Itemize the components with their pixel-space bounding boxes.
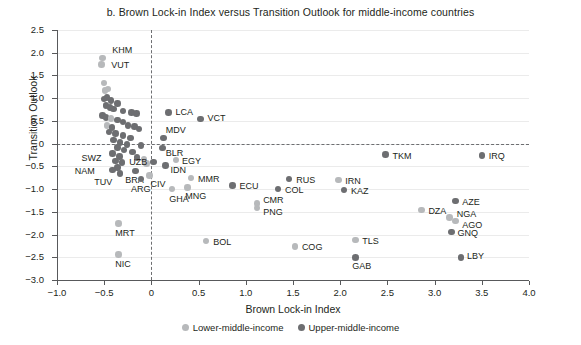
x-axis-tick	[482, 281, 483, 285]
data-point	[109, 150, 116, 157]
x-axis-tick	[104, 281, 105, 285]
data-point-label-vut: VUT	[111, 61, 129, 70]
y-axis-tick-label: 0.5	[8, 115, 44, 126]
y-axis-tick-label: −3.0	[8, 274, 44, 285]
y-axis-tick	[52, 212, 57, 213]
x-axis-tick	[529, 281, 530, 285]
gridline-horizontal	[57, 75, 529, 76]
data-point-label-png: PNG	[263, 208, 283, 217]
data-point-label-col: COL	[285, 186, 304, 195]
gridline-horizontal	[57, 166, 529, 167]
y-axis-tick	[52, 235, 57, 236]
y-axis-tick-label: 2.5	[8, 24, 44, 35]
y-axis-tick	[52, 144, 57, 145]
data-point	[114, 144, 121, 151]
data-point-ago	[452, 218, 459, 225]
data-point	[125, 122, 132, 129]
data-point-mng	[184, 184, 191, 191]
data-point-mmr	[188, 175, 195, 182]
y-axis-tick	[52, 189, 57, 190]
x-axis-tick-label: 2.5	[367, 287, 407, 298]
data-point	[110, 106, 117, 113]
data-point-label-idn: IDN	[171, 166, 187, 175]
y-axis-tick-label: −2.0	[8, 229, 44, 240]
data-point-label-mmr: MMR	[198, 175, 220, 184]
data-point-label-khm: KHM	[112, 46, 132, 55]
data-point-rus	[286, 176, 293, 183]
y-axis-tick	[52, 257, 57, 258]
y-axis-tick-label: 1.0	[8, 92, 44, 103]
x-axis-tick-label: 1.0	[226, 287, 266, 298]
scatter-chart: b. Brown Lock-in Index versus Transition…	[0, 0, 581, 345]
data-point-label-gab: GAB	[352, 262, 371, 271]
x-axis-tick	[199, 281, 200, 285]
data-point-gab	[352, 254, 359, 261]
data-point	[112, 130, 119, 137]
data-point-bol	[203, 238, 210, 245]
y-axis-tick	[52, 30, 57, 31]
data-point-gnq	[448, 229, 455, 236]
legend-label: Upper-middle-income	[309, 322, 400, 333]
data-point-bra	[132, 168, 139, 175]
data-point	[121, 147, 128, 154]
data-point-cog	[292, 243, 299, 250]
x-axis-tick	[151, 281, 152, 285]
data-point-aze	[452, 198, 459, 205]
x-axis-tick-label: 3.5	[462, 287, 502, 298]
data-point	[120, 108, 127, 115]
legend: Lower-middle-incomeUpper-middle-income	[0, 322, 581, 333]
gridline-horizontal	[57, 98, 529, 99]
y-axis-tick-label: −1.5	[8, 206, 44, 217]
data-point-label-gha: GHA	[169, 195, 189, 204]
legend-label: Lower-middle-income	[193, 322, 284, 333]
y-axis-tick-label: −2.5	[8, 251, 44, 262]
y-axis-tick-label: 1.5	[8, 69, 44, 80]
legend-item: Upper-middle-income	[298, 322, 400, 333]
data-point-label-tuv: TUV	[94, 178, 112, 187]
legend-item: Lower-middle-income	[182, 322, 284, 333]
chart-title: b. Brown Lock-in Index versus Transition…	[0, 6, 581, 18]
data-point-mdv	[160, 135, 167, 142]
data-point	[133, 110, 140, 117]
legend-swatch-icon	[182, 324, 189, 331]
x-axis-tick	[246, 281, 247, 285]
y-axis-tick	[52, 75, 57, 76]
data-point-gha	[169, 186, 176, 193]
data-point-label-irq: IRQ	[489, 152, 505, 161]
x-axis-tick-label: 4.0	[509, 287, 549, 298]
data-point-vct	[197, 116, 204, 123]
data-point	[102, 87, 109, 94]
data-point-mrt	[115, 220, 122, 227]
data-point-col	[275, 186, 282, 193]
x-axis-title: Brown Lock-in Index	[57, 303, 529, 315]
data-point-label-kaz: KAZ	[351, 187, 369, 196]
data-point-label-rus: RUS	[296, 176, 315, 185]
data-point-label-mdv: MDV	[166, 126, 186, 135]
y-axis-tick	[52, 121, 57, 122]
x-axis-tick	[340, 281, 341, 285]
data-point-nam	[109, 167, 116, 174]
x-axis-tick-label: −1.0	[37, 287, 77, 298]
legend-swatch-icon	[298, 324, 305, 331]
data-point-label-tkm: TKM	[393, 152, 412, 161]
data-point-label-nam: NAM	[75, 167, 95, 176]
data-point-tls	[352, 237, 359, 244]
data-point-label-gnq: GNQ	[458, 229, 479, 238]
data-point-label-lca: LCA	[175, 108, 193, 117]
x-axis-tick-label: 2.0	[320, 287, 360, 298]
data-point-label-dza: DZA	[428, 207, 446, 216]
y-axis-tick-label: −0.5	[8, 160, 44, 171]
data-point-label-aze: AZE	[462, 198, 480, 207]
data-point	[138, 142, 145, 149]
plot-area: KHMVUTSWZNAMTUVBRAARGCIVLCAVCTMDVBLRUZBE…	[57, 30, 529, 280]
x-axis-tick-label: 0	[131, 287, 171, 298]
x-axis-tick-label: 1.5	[273, 287, 313, 298]
data-point-vut	[98, 61, 105, 68]
data-point	[120, 132, 127, 139]
data-point-label-vct: VCT	[207, 114, 225, 123]
data-point-lca	[165, 109, 172, 116]
data-point-png	[254, 205, 261, 212]
data-point-label-cmr: CMR	[263, 196, 284, 205]
data-point-label-civ: CIV	[151, 180, 166, 189]
x-axis-tick	[57, 281, 58, 285]
